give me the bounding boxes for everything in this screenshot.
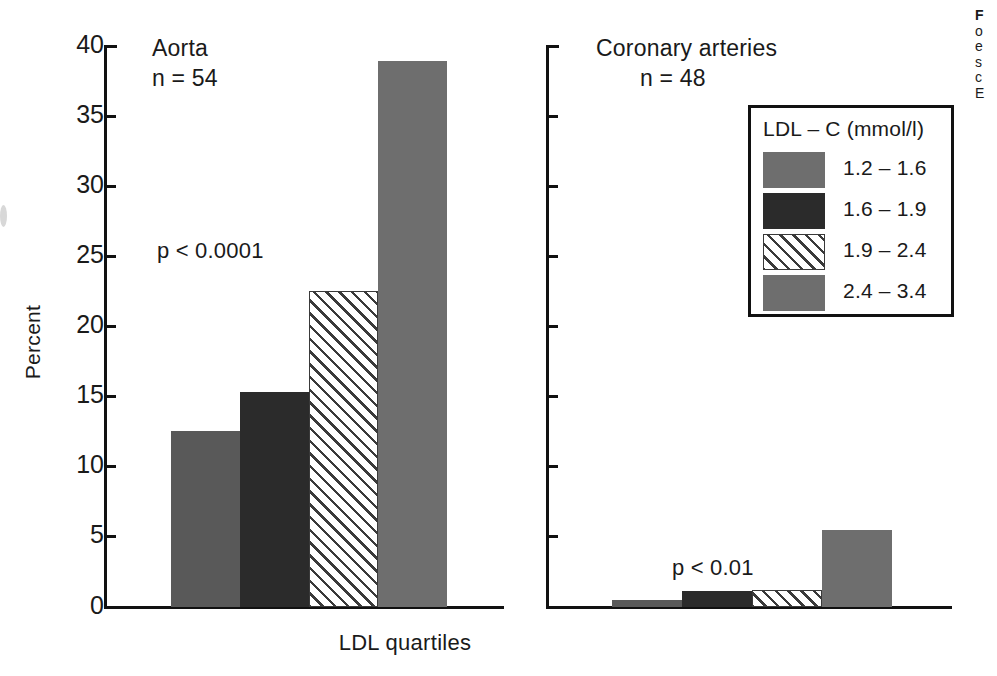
bars-aorta [107, 45, 507, 607]
caption-line-4: s [975, 55, 997, 71]
y-tick-label-15: 15 [58, 382, 104, 407]
caption-line-6: E [975, 86, 997, 101]
y-tick-label-40: 40 [58, 32, 104, 57]
legend-swatch-3 [763, 234, 825, 270]
legend-swatch-4 [763, 275, 825, 311]
y-tick-label-10: 10 [58, 452, 104, 477]
bar-aorta-q3 [309, 291, 378, 607]
legend-label-2: 1.6 – 1.9 [843, 197, 927, 221]
legend-swatch-1 [763, 152, 825, 188]
legend-title: LDL – C (mmol/l) [763, 117, 924, 141]
legend-label-4: 2.4 – 3.4 [843, 279, 927, 303]
caption-line-2: o [975, 24, 997, 40]
legend-label-1: 1.2 – 1.6 [843, 156, 927, 180]
bar-aorta-q1 [171, 431, 240, 607]
caption-line-3: e [975, 39, 997, 55]
bar-coronary-q3 [752, 590, 822, 607]
bar-coronary-q1 [612, 600, 682, 607]
legend-row-4: 2.4 – 3.4 [763, 275, 945, 311]
caption-line-1: F [975, 8, 984, 23]
bar-aorta-q4 [378, 61, 447, 607]
y-tick-label-5: 5 [58, 522, 104, 547]
page-edge-artifact [0, 205, 7, 227]
legend-row-2: 1.6 – 1.9 [763, 193, 945, 229]
y-tick-label-35: 35 [58, 102, 104, 127]
figure-canvas: 40 35 30 25 20 15 10 5 0 Percent Aorta n… [0, 0, 997, 676]
clipped-caption: F o e s c E [975, 8, 997, 100]
y-tick-label-20: 20 [58, 312, 104, 337]
legend-label-3: 1.9 – 2.4 [843, 238, 927, 262]
legend-row-1: 1.2 – 1.6 [763, 152, 945, 188]
legend-box: LDL – C (mmol/l) 1.2 – 1.6 1.6 – 1.9 1.9… [748, 105, 954, 317]
legend-swatch-2 [763, 193, 825, 229]
caption-line-5: c [975, 70, 997, 86]
bar-coronary-q4 [822, 530, 892, 607]
x-axis-title: LDL quartiles [0, 630, 810, 656]
y-tick-label-25: 25 [58, 242, 104, 267]
bar-coronary-q2 [682, 591, 752, 607]
legend-row-3: 1.9 – 2.4 [763, 234, 945, 270]
y-axis-title: Percent [21, 277, 45, 407]
y-tick-label-30: 30 [58, 172, 104, 197]
y-tick-label-0: 0 [58, 593, 104, 618]
bar-aorta-q2 [240, 392, 309, 607]
